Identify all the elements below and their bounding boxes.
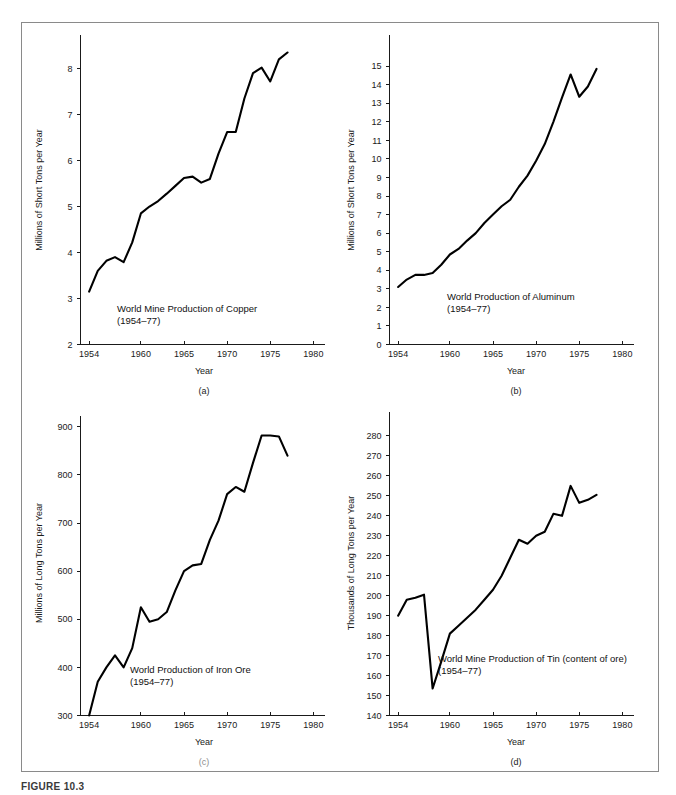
iron-ore-x-axis-title: Year (195, 737, 213, 747)
y-tick-label: 12 (371, 117, 381, 127)
copper-y-ticks: 2345678 (67, 64, 80, 350)
y-tick-label: 2 (376, 303, 381, 313)
tin-chart-svg: 1401501601701801902002102202302402502602… (341, 398, 660, 773)
y-tick-label: 220 (366, 551, 381, 561)
tin-annotation-title: World Mine Production of Tin (content of… (438, 653, 627, 664)
y-tick-label: 2 (67, 340, 72, 350)
tin-y-axis-title: Thousands of Long Tons per Year (346, 496, 356, 630)
iron-ore-y-ticks: 300400500600700800900 (57, 422, 80, 721)
y-tick-label: 10 (371, 154, 381, 164)
copper-annotation-subtitle: (1954–77) (117, 315, 160, 326)
x-tick-label: 1980 (303, 720, 323, 730)
panel-letter-b: (b) (511, 386, 522, 396)
aluminum-annotation-subtitle: (1954–77) (447, 303, 490, 314)
y-tick-label: 600 (57, 566, 72, 576)
y-tick-label: 240 (366, 511, 381, 521)
y-tick-label: 270 (366, 451, 381, 461)
y-tick-label: 300 (57, 711, 72, 721)
iron-ore-annotation-subtitle: (1954–77) (130, 676, 173, 687)
y-tick-label: 6 (67, 156, 72, 166)
x-tick-label: 1970 (217, 720, 237, 730)
copper-x-ticks: 195419601965197019751980 (79, 341, 323, 360)
x-tick-label: 1980 (612, 720, 632, 730)
y-tick-label: 8 (376, 191, 381, 201)
x-tick-label: 1975 (260, 349, 280, 359)
y-tick-label: 6 (376, 228, 381, 238)
aluminum-series-line (398, 69, 596, 287)
y-tick-label: 150 (366, 691, 381, 701)
y-tick-label: 260 (366, 471, 381, 481)
panel-letter-c: (c) (199, 757, 210, 767)
y-tick-label: 7 (67, 110, 72, 120)
iron-ore-chart-svg: 300400500600700800900 195419601965197019… (22, 398, 341, 773)
aluminum-chart-svg: 0123456789101112131415 19541960196519701… (341, 23, 660, 398)
iron-ore-annotation-title: World Production of Iron Ore (130, 664, 251, 675)
y-tick-label: 230 (366, 531, 381, 541)
y-tick-label: 0 (376, 340, 381, 350)
chart-panel-aluminum: 0123456789101112131415 19541960196519701… (341, 23, 660, 398)
x-tick-label: 1980 (612, 349, 632, 359)
y-tick-label: 13 (371, 98, 381, 108)
x-tick-label: 1960 (131, 720, 151, 730)
x-tick-label: 1975 (260, 720, 280, 730)
tin-axes: 1401501601701801902002102202302402502602… (366, 412, 634, 730)
copper-annotation-title: World Mine Production of Copper (117, 303, 257, 314)
aluminum-x-ticks: 195419601965197019751980 (388, 341, 632, 360)
y-tick-label: 14 (371, 80, 381, 90)
y-tick-label: 7 (376, 210, 381, 220)
y-tick-label: 190 (366, 611, 381, 621)
x-tick-label: 1975 (569, 720, 589, 730)
tin-annotation-subtitle: (1954–77) (438, 665, 481, 676)
copper-y-axis-title: Millions of Short Tons per Year (34, 129, 44, 250)
aluminum-axes: 0123456789101112131415 19541960196519701… (371, 35, 634, 359)
x-tick-label: 1980 (303, 349, 323, 359)
figure-caption: FIGURE 10.3 (21, 781, 84, 793)
x-tick-label: 1970 (217, 349, 237, 359)
y-tick-label: 15 (371, 61, 381, 71)
y-tick-label: 160 (366, 671, 381, 681)
copper-x-axis-title: Year (195, 366, 213, 376)
y-tick-label: 5 (67, 202, 72, 212)
x-tick-label: 1965 (174, 720, 194, 730)
panel-letter-a: (a) (199, 386, 210, 396)
iron-ore-x-ticks: 195419601965197019751980 (79, 712, 323, 731)
y-tick-label: 140 (366, 711, 381, 721)
y-tick-label: 250 (366, 491, 381, 501)
x-tick-label: 1975 (569, 349, 589, 359)
x-tick-label: 1965 (483, 720, 503, 730)
chart-panel-tin: 1401501601701801902002102202302402502602… (341, 398, 660, 773)
copper-axis-lines (81, 35, 326, 345)
aluminum-y-axis-title: Millions of Short Tons per Year (346, 129, 356, 250)
chart-panel-copper: 2345678 195419601965197019751980 World M… (22, 23, 341, 398)
y-tick-label: 4 (67, 248, 72, 258)
y-tick-label: 4 (376, 265, 381, 275)
x-tick-label: 1965 (174, 349, 194, 359)
y-tick-label: 800 (57, 470, 72, 480)
copper-series-line (89, 53, 287, 292)
x-tick-label: 1970 (526, 720, 546, 730)
aluminum-annotation-title: World Production of Aluminum (447, 291, 575, 302)
y-tick-label: 5 (376, 247, 381, 257)
tin-y-ticks: 1401501601701801902002102202302402502602… (366, 431, 389, 721)
x-tick-label: 1954 (79, 720, 99, 730)
y-tick-label: 210 (366, 571, 381, 581)
y-tick-label: 170 (366, 651, 381, 661)
x-tick-label: 1965 (483, 349, 503, 359)
y-tick-label: 180 (366, 631, 381, 641)
y-tick-label: 3 (67, 294, 72, 304)
y-tick-label: 700 (57, 518, 72, 528)
x-tick-label: 1960 (440, 720, 460, 730)
y-tick-label: 200 (366, 591, 381, 601)
aluminum-x-axis-title: Year (507, 366, 525, 376)
y-tick-label: 3 (376, 284, 381, 294)
x-tick-label: 1954 (388, 720, 408, 730)
y-tick-label: 11 (372, 136, 381, 146)
figure-border-frame: 2345678 195419601965197019751980 World M… (21, 22, 659, 772)
y-tick-label: 500 (57, 614, 72, 624)
y-tick-label: 9 (376, 173, 381, 183)
x-tick-label: 1954 (79, 349, 99, 359)
y-tick-label: 1 (376, 321, 381, 331)
y-tick-label: 400 (57, 663, 72, 673)
y-tick-label: 900 (57, 422, 72, 432)
chart-panel-iron-ore: 300400500600700800900 195419601965197019… (22, 398, 341, 773)
